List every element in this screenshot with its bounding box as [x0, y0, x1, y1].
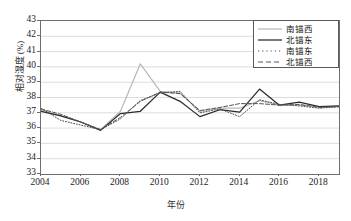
y-tick-41: 41	[2, 46, 36, 55]
x-axis-title: 年份	[0, 198, 351, 211]
humidity-line-chart: 相对湿度 (%) 年份 4342414039383736353433 20042…	[0, 0, 351, 221]
x-tick-2012: 2012	[179, 177, 219, 187]
legend-item-2[interactable]: 北锚东	[257, 34, 335, 45]
legend-item-4[interactable]: 北锚西	[257, 56, 335, 67]
x-tick-2004: 2004	[20, 177, 60, 187]
y-tick-40: 40	[2, 61, 36, 70]
legend-line-swatch	[257, 35, 283, 45]
y-tick-42: 42	[2, 30, 36, 39]
legend-label: 北锚西	[286, 57, 313, 67]
x-tick-2010: 2010	[139, 177, 179, 187]
legend-item-3[interactable]: 南锚东	[257, 45, 335, 56]
legend-label: 南锚东	[286, 46, 313, 56]
series-line-2	[41, 89, 339, 130]
legend-item-1[interactable]: 南锚西	[257, 23, 335, 34]
legend-label: 南锚西	[286, 24, 313, 34]
legend-line-swatch	[257, 57, 283, 67]
y-tick-35: 35	[2, 137, 36, 146]
y-tick-38: 38	[2, 92, 36, 101]
y-tick-36: 36	[2, 122, 36, 131]
x-tick-2006: 2006	[60, 177, 100, 187]
y-tick-43: 43	[2, 15, 36, 24]
legend-line-swatch	[257, 46, 283, 56]
legend-line-swatch	[257, 24, 283, 34]
legend-label: 北锚东	[286, 35, 313, 45]
x-tick-2016: 2016	[258, 177, 298, 187]
y-tick-39: 39	[2, 76, 36, 85]
chart-legend: 南锚西北锚东南锚东北锚西	[253, 20, 339, 68]
x-tick-2008: 2008	[99, 177, 139, 187]
y-tick-37: 37	[2, 107, 36, 116]
x-tick-2018: 2018	[298, 177, 338, 187]
y-tick-33: 33	[2, 168, 36, 177]
series-line-1	[41, 64, 339, 130]
x-tick-2014: 2014	[219, 177, 259, 187]
y-tick-34: 34	[2, 153, 36, 162]
